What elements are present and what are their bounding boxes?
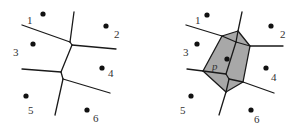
site-point-6: [248, 107, 253, 112]
site-point-3: [30, 41, 35, 46]
site-point-p: [224, 56, 229, 61]
edge-2-4: [72, 45, 116, 49]
site-label-5: 5: [28, 104, 34, 116]
edge-5-6: [55, 79, 63, 115]
site-label-2: 2: [114, 28, 120, 40]
voronoi-figure: 1 2 3 4 5 6: [0, 0, 296, 132]
site-point-2: [268, 23, 273, 28]
site-point-5: [23, 93, 28, 98]
edge-5-6-outer: [219, 92, 226, 115]
site-label-3: 3: [13, 46, 19, 58]
site-point-2: [103, 23, 108, 28]
site-point-6: [84, 107, 89, 112]
site-point-4: [99, 65, 104, 70]
right-voronoi-diagram: 1 2 3 p 4 5 6: [180, 12, 286, 125]
edge-vertex-link-2: [61, 72, 63, 79]
site-label-6: 6: [254, 113, 260, 125]
left-sites: [23, 11, 108, 112]
left-voronoi-edges: [22, 12, 116, 115]
site-point-5: [188, 93, 193, 98]
site-point-4: [263, 65, 268, 70]
edge-1-3: [22, 25, 70, 42]
site-label-5: 5: [180, 104, 186, 116]
site-label-4: 4: [108, 67, 114, 79]
site-label-1: 1: [27, 14, 33, 26]
edge-1-2: [70, 12, 74, 42]
edge-4-6: [63, 79, 110, 93]
edge-3-5: [22, 69, 61, 72]
left-voronoi-diagram: 1 2 3 4 5 6: [13, 11, 120, 124]
site-label-6: 6: [93, 112, 99, 124]
edge-3-5-outer: [187, 69, 203, 71]
site-point-3: [194, 41, 199, 46]
edge-1-2-outer: [238, 12, 242, 31]
edge-3-4: [61, 45, 72, 72]
site-point-1: [40, 11, 45, 16]
site-label-1: 1: [195, 14, 201, 26]
edge-1-3-outer: [186, 25, 222, 36]
site-label-p: p: [211, 60, 218, 72]
site-label-4: 4: [271, 71, 277, 83]
site-point-1: [204, 12, 209, 17]
edge-4-6-outer: [243, 82, 274, 93]
site-label-3: 3: [183, 46, 189, 58]
site-label-2: 2: [280, 28, 286, 40]
